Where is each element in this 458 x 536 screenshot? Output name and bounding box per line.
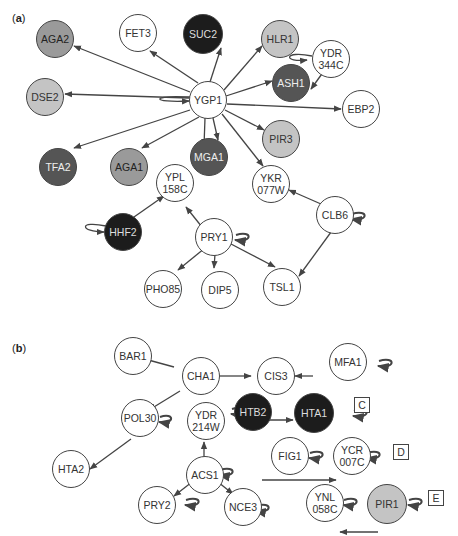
node-acs1[interactable]: ACS1 — [186, 456, 224, 494]
node-hta2[interactable]: HTA2 — [52, 450, 90, 488]
node-dse2[interactable]: DSE2 — [26, 78, 64, 116]
node-clb6[interactable]: CLB6 — [316, 196, 354, 234]
cluster-box-d: D — [393, 444, 409, 460]
node-suc2[interactable]: SUC2 — [183, 14, 223, 54]
node-ebp2[interactable]: EBP2 — [342, 90, 380, 128]
node-ycr007c[interactable]: YCR 007C — [333, 437, 371, 475]
node-cha1[interactable]: CHA1 — [182, 357, 220, 395]
node-tfa2[interactable]: TFA2 — [39, 148, 77, 186]
node-mfa1[interactable]: MFA1 — [329, 343, 367, 381]
node-pry1[interactable]: PRY1 — [195, 218, 233, 256]
node-ykr077w[interactable]: YKR 077W — [252, 165, 290, 203]
node-aga2[interactable]: AGA2 — [36, 20, 74, 58]
panel-label-b: (b) — [12, 342, 26, 354]
node-ynl058c[interactable]: YNL 058C — [306, 484, 344, 522]
node-ypl158c[interactable]: YPL 158C — [156, 164, 194, 202]
node-hlr1[interactable]: HLR1 — [261, 20, 299, 58]
node-pho85[interactable]: PHO85 — [144, 270, 182, 308]
node-tsl1[interactable]: TSL1 — [263, 268, 301, 306]
panel-label-a: (a) — [12, 12, 25, 24]
node-hhf2[interactable]: HHF2 — [104, 213, 142, 251]
node-pol30[interactable]: POL30 — [121, 399, 159, 437]
cluster-box-c: C — [354, 397, 370, 413]
node-cis3[interactable]: CIS3 — [257, 357, 295, 395]
node-pir1[interactable]: PIR1 — [367, 484, 407, 524]
node-pir3[interactable]: PIR3 — [262, 120, 300, 158]
node-nce3[interactable]: NCE3 — [224, 488, 262, 526]
node-pry2[interactable]: PRY2 — [138, 486, 176, 524]
node-ydr214w[interactable]: YDR 214W — [187, 402, 225, 440]
node-hta1[interactable]: HTA1 — [294, 393, 334, 433]
network-figure: (a) (b) AGA2 FET3 SUC2 HLR1 DSE2 YGP1 AS… — [0, 0, 458, 536]
cluster-box-e: E — [428, 490, 444, 506]
node-fet3[interactable]: FET3 — [119, 14, 157, 52]
node-ash1[interactable]: ASH1 — [272, 64, 310, 102]
node-fig1[interactable]: FIG1 — [271, 437, 309, 475]
node-htb2[interactable]: HTB2 — [234, 393, 272, 431]
node-ygp1[interactable]: YGP1 — [189, 81, 227, 119]
node-dip5[interactable]: DIP5 — [201, 271, 239, 309]
node-ydr344c[interactable]: YDR 344C — [312, 40, 350, 78]
node-aga1[interactable]: AGA1 — [110, 148, 148, 186]
node-bar1[interactable]: BAR1 — [114, 337, 152, 375]
node-mga1[interactable]: MGA1 — [190, 138, 228, 176]
